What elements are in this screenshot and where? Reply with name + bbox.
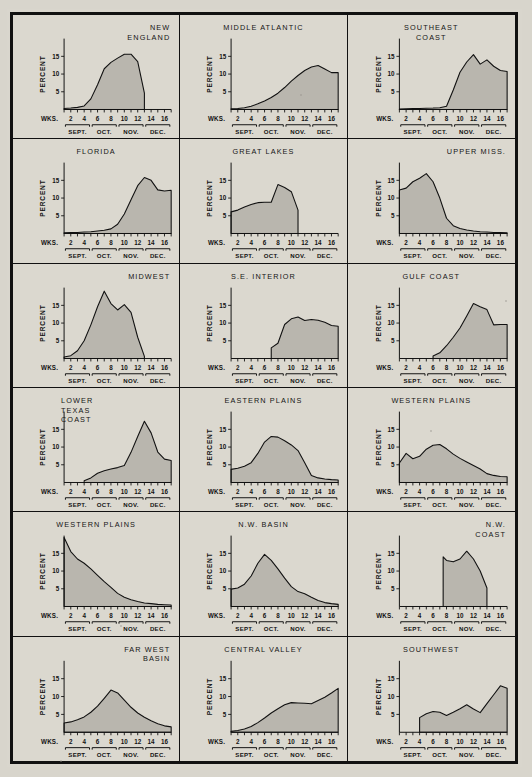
y-axis-label: PERCENT xyxy=(39,304,46,341)
x-tick-label: 14 xyxy=(483,239,491,246)
y-tick-label: 10 xyxy=(52,70,59,77)
month-label: OCT. xyxy=(97,252,112,259)
chart-panel: 51015PERCENT246810121416WKS.SEPT.OCT.NOV… xyxy=(13,512,180,636)
x-tick-label: 2 xyxy=(404,363,408,370)
y-axis-label: PERCENT xyxy=(207,304,214,341)
y-tick-label: 5 xyxy=(223,461,227,468)
x-tick-label: 16 xyxy=(328,737,335,744)
x-tick-label: 4 xyxy=(417,363,421,370)
month-bracket xyxy=(146,373,170,375)
x-axis-label: WKS. xyxy=(41,612,58,619)
month-label: NOV. xyxy=(123,750,138,757)
month-bracket xyxy=(313,249,337,251)
scan-speck xyxy=(120,625,122,627)
month-label: DEC. xyxy=(485,501,501,508)
month-bracket xyxy=(233,249,257,251)
month-label: OCT. xyxy=(264,252,279,259)
x-tick-label: 8 xyxy=(109,737,113,744)
x-tick-label: 6 xyxy=(96,363,100,370)
month-bracket xyxy=(400,373,424,375)
panel-title: NEW ENGLAND xyxy=(127,23,170,42)
month-label: SEPT. xyxy=(403,501,422,508)
scan-speck xyxy=(60,760,62,762)
month-label: NOV. xyxy=(123,376,138,383)
month-label: SEPT. xyxy=(68,750,86,757)
x-tick-label: 2 xyxy=(236,488,240,495)
y-tick-label: 5 xyxy=(56,88,60,95)
x-axis-label: WKS. xyxy=(208,363,225,370)
month-label: SEPT. xyxy=(236,128,254,135)
month-bracket xyxy=(400,747,424,749)
y-axis-label: PERCENT xyxy=(207,428,214,465)
x-tick-label: 6 xyxy=(263,612,267,619)
x-tick-label: 4 xyxy=(82,488,86,495)
region-area-chart: 51015PERCENT246810121416WKS.SEPT.OCT.NOV… xyxy=(348,388,515,511)
region-area-chart: 51015PERCENT246810121416WKS.SEPT.OCT.NOV… xyxy=(180,15,346,138)
month-label: SEPT. xyxy=(236,501,254,508)
region-area-chart: 51015PERCENT246810121416WKS.SEPT.OCT.NOV… xyxy=(180,512,346,635)
y-tick-label: 15 xyxy=(387,53,395,60)
x-tick-label: 12 xyxy=(470,239,478,246)
panel-title: UPPER MISS. xyxy=(447,147,506,157)
month-bracket xyxy=(400,498,424,500)
y-tick-label: 5 xyxy=(223,710,227,717)
panel-title: GREAT LAKES xyxy=(180,147,346,157)
x-tick-label: 14 xyxy=(148,488,155,495)
x-tick-label: 16 xyxy=(161,488,168,495)
y-axis-label: PERCENT xyxy=(207,553,214,590)
y-tick-label: 10 xyxy=(220,70,227,77)
month-bracket xyxy=(454,622,478,624)
month-label: OCT. xyxy=(97,625,112,632)
month-label: DEC. xyxy=(317,750,333,757)
y-tick-label: 15 xyxy=(387,301,395,308)
x-tick-label: 8 xyxy=(109,612,113,619)
y-tick-label: 15 xyxy=(220,426,227,433)
x-tick-label: 14 xyxy=(315,115,322,122)
y-axis-label: PERCENT xyxy=(207,677,214,714)
month-label: DEC. xyxy=(485,128,501,135)
month-label: SEPT. xyxy=(68,128,86,135)
month-label: NOV. xyxy=(123,501,138,508)
y-tick-label: 10 xyxy=(52,568,59,575)
chart-panel: 51015PERCENT246810121416WKS.SEPT.OCT.NOV… xyxy=(348,15,515,139)
month-bracket xyxy=(65,249,89,251)
x-tick-label: 8 xyxy=(444,737,448,744)
y-tick-label: 5 xyxy=(223,585,227,592)
chart-panel: 51015PERCENT246810121416WKS.SEPT.OCT.NOV… xyxy=(180,512,347,636)
area-series xyxy=(64,178,171,234)
x-tick-label: 8 xyxy=(109,488,113,495)
y-tick-label: 15 xyxy=(52,675,59,682)
x-tick-label: 8 xyxy=(109,115,113,122)
panel-title: EASTERN PLAINS xyxy=(180,396,346,406)
month-label: NOV. xyxy=(291,750,306,757)
x-tick-label: 8 xyxy=(444,239,448,246)
x-tick-label: 12 xyxy=(470,363,478,370)
month-label: SEPT. xyxy=(403,376,422,383)
x-tick-label: 8 xyxy=(277,239,281,246)
panel-title: LOWER TEXAS COAST xyxy=(61,396,93,425)
y-tick-label: 10 xyxy=(220,443,227,450)
month-bracket xyxy=(119,622,143,624)
month-bracket xyxy=(92,249,116,251)
panel-title: WESTERN PLAINS xyxy=(348,396,515,406)
area-series xyxy=(64,54,144,109)
month-bracket xyxy=(427,249,451,251)
month-bracket xyxy=(427,125,451,127)
x-axis-label: WKS. xyxy=(41,115,58,122)
x-axis-label: WKS. xyxy=(376,363,393,370)
month-label: SEPT. xyxy=(68,252,86,259)
x-tick-label: 12 xyxy=(470,737,478,744)
panel-title: MIDDLE ATLANTIC xyxy=(180,23,346,33)
y-tick-label: 5 xyxy=(56,585,60,592)
month-label: OCT. xyxy=(97,376,112,383)
x-tick-label: 12 xyxy=(470,115,478,122)
x-tick-label: 16 xyxy=(497,488,505,495)
month-bracket xyxy=(481,249,505,251)
month-bracket xyxy=(260,249,284,251)
x-tick-label: 10 xyxy=(456,737,464,744)
month-label: OCT. xyxy=(264,501,279,508)
panel-title: SOUTHEAST COAST xyxy=(348,23,515,42)
month-bracket xyxy=(286,373,310,375)
x-tick-label: 6 xyxy=(96,737,100,744)
month-label: DEC. xyxy=(150,376,166,383)
